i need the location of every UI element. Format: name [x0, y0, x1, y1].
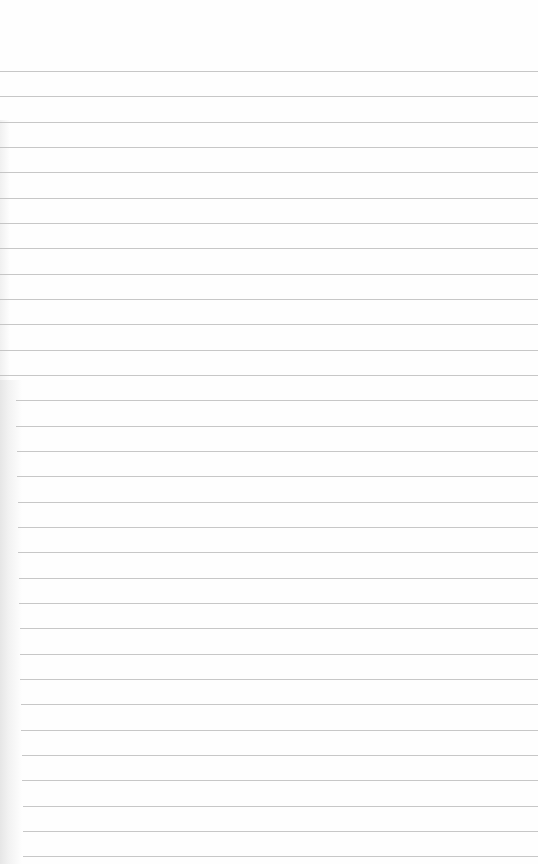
ruled-line [0, 274, 538, 275]
ruled-line [0, 96, 538, 97]
ruled-line [0, 299, 538, 300]
ruled-line [17, 451, 538, 452]
ruled-line [22, 755, 538, 756]
ruled-line [22, 780, 538, 781]
ruled-line [0, 350, 538, 351]
ruled-line [21, 730, 538, 731]
ruled-line [18, 502, 538, 503]
ruled-line [23, 806, 538, 807]
ruled-line [0, 223, 538, 224]
ruled-line [17, 476, 538, 477]
lined-paper-sheet [0, 0, 538, 864]
ruled-line [0, 248, 538, 249]
ruled-line [0, 172, 538, 173]
ruled-line [20, 628, 538, 629]
ruled-line [21, 704, 538, 705]
ruled-line [19, 578, 538, 579]
ruled-line [23, 856, 538, 857]
ruled-line [0, 198, 538, 199]
ruled-line [20, 679, 538, 680]
ruled-line [23, 831, 538, 832]
ruled-line [16, 400, 538, 401]
ruled-line [18, 552, 538, 553]
ruled-line [0, 147, 538, 148]
ruled-line [0, 71, 538, 72]
ruled-line [18, 527, 538, 528]
ruled-line [0, 375, 538, 376]
ruled-line [20, 654, 538, 655]
ruled-line [0, 122, 538, 123]
ruled-line [19, 603, 538, 604]
ruled-lines [0, 0, 538, 864]
ruled-line [16, 426, 538, 427]
ruled-line [0, 324, 538, 325]
